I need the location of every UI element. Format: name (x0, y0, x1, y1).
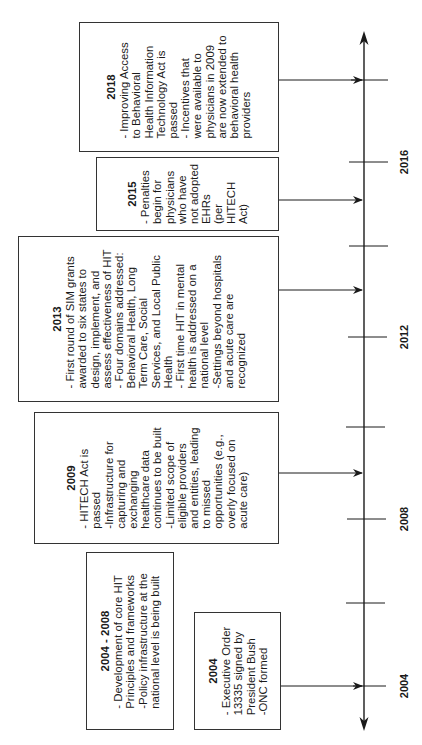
event-text-2009: 2009 - HITECH Act is passed -Infrastruct… (64, 427, 248, 528)
event-text-2013: 2013 - First round of SIM grants awarded… (50, 249, 246, 388)
event-text-2018: 2018 - Improving Access to Behavioral He… (105, 35, 252, 138)
event-box-2015: 2015 - Penalties begin for physicians wh… (96, 157, 279, 231)
event-text-2004-2008: 2004 - 2008 - Development of core HIT Pr… (99, 573, 161, 708)
event-box-2004-2008: 2004 - 2008 - Development of core HIT Pr… (86, 552, 174, 730)
axis-label-2016: 2016 (398, 150, 410, 174)
event-year: 2015 (126, 164, 138, 224)
event-box-2018: 2018 - Improving Access to Behavioral He… (79, 22, 279, 152)
event-text-2004: 2004 - Executive Order 13335 signed by P… (206, 627, 268, 716)
event-year: 2004 - 2008 (99, 573, 111, 708)
event-year: 2004 (206, 627, 218, 716)
event-year: 2018 (105, 35, 117, 138)
axis-label-2012: 2012 (398, 325, 410, 349)
event-box-2004: 2004 - Executive Order 13335 signed by P… (194, 612, 281, 730)
event-text-2015: 2015 - Penalties begin for physicians wh… (126, 164, 249, 224)
event-year: 2013 (50, 249, 62, 388)
event-box-2009: 2009 - HITECH Act is passed -Infrastruct… (34, 412, 279, 544)
hit-policy-timeline: 2016 2012 2008 2004 2018 - Improving Acc… (0, 0, 422, 745)
axis-label-2004: 2004 (398, 674, 410, 698)
event-box-2013: 2013 - First round of SIM grants awarded… (18, 236, 279, 402)
axis-label-2008: 2008 (398, 507, 410, 531)
event-year: 2009 (64, 427, 76, 528)
